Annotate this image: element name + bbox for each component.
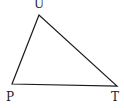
- triangle-diagram: U P T: [0, 0, 124, 108]
- triangle-shape: [0, 0, 124, 108]
- vertex-label-top: U: [34, 0, 44, 10]
- vertex-label-left: P: [6, 91, 14, 103]
- triangle-outline: [12, 15, 117, 86]
- vertex-label-right: T: [111, 91, 119, 103]
